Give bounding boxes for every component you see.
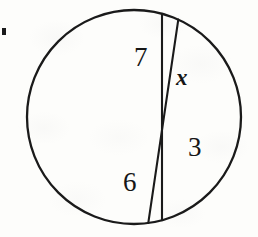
segment-label-3: 3 [188, 134, 202, 161]
segment-label-7: 7 [134, 44, 148, 71]
diagram-page: 7 x 3 6 [0, 0, 258, 237]
segment-label-6: 6 [123, 169, 137, 196]
circle-chords-figure [0, 0, 258, 237]
segment-label-x: x [176, 66, 188, 89]
chord-b [148, 20, 178, 223]
